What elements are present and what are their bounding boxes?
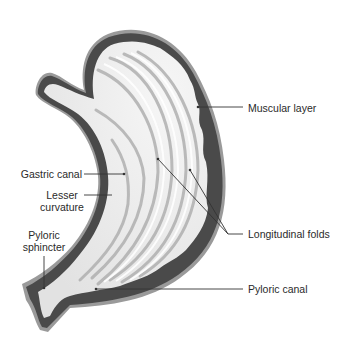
label-pyloric-sphincter-line1: Pyloric — [18, 229, 70, 241]
label-lesser-curvature: Lesser curvature — [40, 189, 84, 213]
label-longitudinal-folds: Longitudinal folds — [248, 228, 330, 240]
label-muscular-layer: Muscular layer — [248, 102, 316, 114]
stomach-diagram: Muscular layer Gastric canal Lesser curv… — [0, 0, 346, 338]
label-pyloric-sphincter-line2: sphincter — [18, 241, 70, 253]
label-gastric-canal: Gastric canal — [0, 168, 82, 180]
label-pyloric-sphincter: Pyloric sphincter — [18, 229, 70, 253]
label-pyloric-canal: Pyloric canal — [248, 283, 308, 295]
label-lesser-curvature-line1: Lesser — [40, 189, 84, 201]
label-lesser-curvature-line2: curvature — [40, 201, 84, 213]
